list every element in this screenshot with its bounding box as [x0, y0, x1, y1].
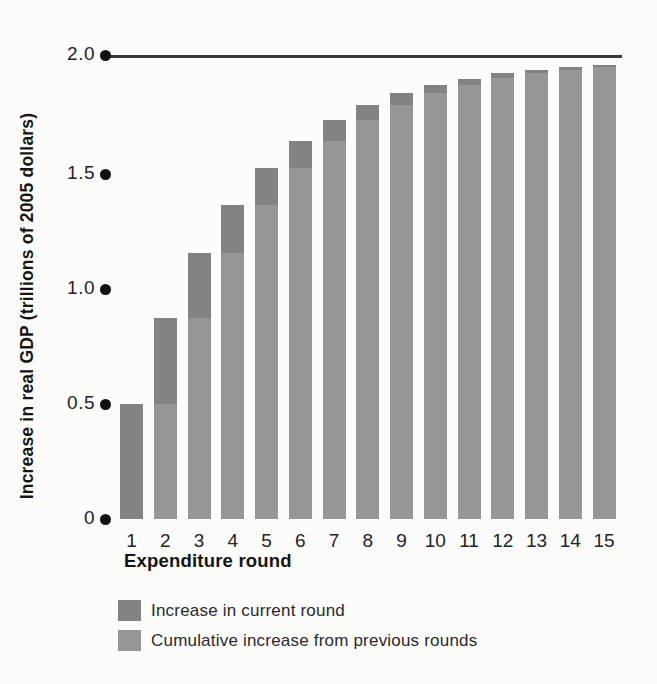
bar-round-4 — [221, 205, 244, 519]
bar-segment-cumulative — [424, 93, 447, 519]
y-axis-title: Increase in real GDP (trillions of 2005 … — [17, 113, 38, 500]
legend-item-cumulative: Cumulative increase from previous rounds — [118, 630, 477, 651]
bar-segment-cumulative — [154, 404, 177, 519]
y-tick-dot — [100, 50, 111, 61]
x-tick-label: 10 — [418, 530, 452, 552]
bar-round-8 — [356, 105, 379, 519]
bar-segment-cumulative — [356, 120, 379, 519]
reference-line-2-trillion — [105, 55, 622, 58]
bar-segment-cumulative — [255, 205, 278, 519]
y-tick-label: 2.0 — [51, 43, 95, 65]
bar-segment-current-round — [154, 318, 177, 404]
y-tick-label: 0 — [51, 507, 95, 529]
x-tick-label: 5 — [250, 530, 284, 552]
bar-round-9 — [390, 93, 413, 519]
x-tick-label: 7 — [317, 530, 351, 552]
bar-segment-cumulative — [188, 318, 211, 519]
bar-segment-cumulative — [323, 141, 346, 519]
bar-segment-cumulative — [593, 67, 616, 519]
legend-label-cumulative: Cumulative increase from previous rounds — [151, 631, 477, 651]
bar-segment-cumulative — [221, 253, 244, 519]
bar-round-5 — [255, 168, 278, 519]
bar-segment-current-round — [289, 141, 312, 168]
bar-segment-cumulative — [458, 85, 481, 519]
y-tick-dot — [100, 169, 111, 180]
legend-item-current-round: Increase in current round — [118, 600, 477, 621]
bar-round-10 — [424, 85, 447, 519]
y-tick-dot — [100, 399, 111, 410]
bar-segment-current-round — [120, 404, 143, 519]
bar-round-3 — [188, 253, 211, 519]
x-tick-label: 15 — [587, 530, 621, 552]
x-tick-label: 1 — [115, 530, 149, 552]
legend: Increase in current round Cumulative inc… — [118, 600, 477, 660]
y-tick-dot — [100, 284, 111, 295]
y-tick-label: 1.5 — [51, 162, 95, 184]
bar-segment-cumulative — [390, 105, 413, 519]
y-tick-label: 1.0 — [51, 277, 95, 299]
x-tick-label: 12 — [486, 530, 520, 552]
current-round-swatch-icon — [118, 600, 141, 621]
x-tick-label: 4 — [216, 530, 250, 552]
x-tick-label: 13 — [520, 530, 554, 552]
bar-segment-cumulative — [559, 70, 582, 519]
bar-round-7 — [323, 120, 346, 519]
bar-segment-current-round — [188, 253, 211, 318]
bar-round-15 — [593, 65, 616, 519]
legend-label-current-round: Increase in current round — [151, 601, 345, 621]
x-tick-label: 14 — [553, 530, 587, 552]
x-axis-title: Expenditure round — [124, 550, 292, 572]
bar-segment-current-round — [424, 85, 447, 93]
bar-segment-cumulative — [525, 73, 548, 519]
bar-segment-cumulative — [491, 78, 514, 519]
bar-segment-current-round — [221, 205, 244, 253]
multiplier-chart-figure: Increase in real GDP (trillions of 2005 … — [0, 0, 657, 684]
x-tick-label: 11 — [452, 530, 486, 552]
y-tick-dot — [100, 514, 111, 525]
bar-round-2 — [154, 318, 177, 519]
y-tick-label: 0.5 — [51, 392, 95, 414]
bar-segment-cumulative — [289, 168, 312, 519]
x-tick-label: 3 — [182, 530, 216, 552]
bar-round-11 — [458, 79, 481, 519]
bar-round-1 — [120, 404, 143, 519]
bar-round-6 — [289, 141, 312, 519]
bar-segment-current-round — [323, 120, 346, 141]
bar-round-13 — [525, 70, 548, 519]
x-tick-label: 6 — [283, 530, 317, 552]
bar-segment-current-round — [356, 105, 379, 120]
x-tick-label: 8 — [351, 530, 385, 552]
bar-round-12 — [491, 73, 514, 519]
bar-segment-current-round — [255, 168, 278, 205]
x-tick-label: 2 — [148, 530, 182, 552]
bar-segment-current-round — [390, 93, 413, 105]
cumulative-swatch-icon — [118, 630, 141, 651]
x-tick-label: 9 — [385, 530, 419, 552]
bar-round-14 — [559, 67, 582, 519]
